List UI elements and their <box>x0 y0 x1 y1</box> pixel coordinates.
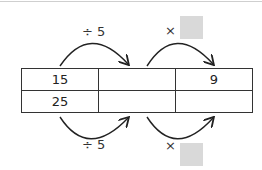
ratio-table: 15 9 25 <box>21 68 253 113</box>
cell: 25 <box>22 91 99 113</box>
cell: 9 <box>176 69 253 91</box>
blank-box-top <box>180 16 203 39</box>
arrow-top-left <box>60 43 128 66</box>
arrow-bottom-right <box>147 117 213 139</box>
cell <box>99 91 176 113</box>
op-top-right: × <box>165 23 176 38</box>
op-top-left: ÷ 5 <box>82 24 105 39</box>
table-row: 25 <box>22 91 253 113</box>
cell <box>176 91 253 113</box>
table-row: 15 9 <box>22 69 253 91</box>
arrow-bottom-left <box>60 117 128 139</box>
cell <box>99 69 176 91</box>
cell: 15 <box>22 69 99 91</box>
arrow-top-right <box>147 43 213 66</box>
blank-box-bottom <box>180 143 203 166</box>
op-bottom-left: ÷ 5 <box>82 137 105 152</box>
op-bottom-right: × <box>165 138 176 153</box>
